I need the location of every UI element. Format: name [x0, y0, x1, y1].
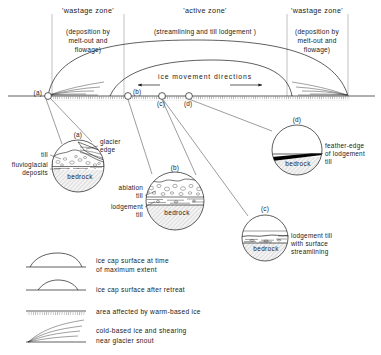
marker-a[interactable] [45, 93, 52, 100]
inset-a-label: (a) [74, 131, 82, 139]
inset-d-ann-l2: of lodgement [325, 150, 365, 158]
leader-a-2 [51, 99, 92, 142]
legend-label-max-extent-l2: of maximum extent [96, 266, 157, 273]
inset-a-ann-fluvio-l1: fluvioglacial [12, 161, 48, 169]
marker-d[interactable] [186, 93, 193, 100]
zone-sub-wastage-right-l1: (deposition by [295, 28, 339, 36]
legend-label-after-retreat-l1: ice cap surface after retreat [96, 286, 185, 294]
inset-a-ann-glacier-edge-l2: edge [100, 146, 115, 154]
zone-title-wastage-right: 'wastage zone' [291, 6, 343, 15]
inset-a-ann-fluvio-l2: deposits [22, 169, 48, 177]
marker-label-b: (b) [133, 88, 141, 96]
zone-title-wastage-left: 'wastage zone' [62, 6, 114, 15]
legend-item-warm-based: area affected by warm-based ice [26, 308, 201, 316]
legend-label-warm-based-l1: area affected by warm-based ice [96, 308, 201, 316]
legend-label-cold-based-l1: cold-based ice and shearing [96, 327, 187, 335]
inset-d-ann-l1: feather-edge [325, 142, 364, 150]
inset-b-bedrock-label: bedrock [164, 209, 190, 216]
inset-d-ann-l3: till [325, 158, 332, 165]
zone-sub-wastage-right-l2: melt-out and [297, 37, 336, 44]
inset-b-ann-ablation-l1: ablation [119, 184, 144, 191]
inset-b-label: (b) [171, 164, 179, 172]
shear-fan-left [49, 82, 104, 95]
inset-c-ann-l2: with surface [290, 240, 328, 247]
zone-sub-wastage-left-l1: (deposition by [66, 28, 110, 36]
warm-based-bed-hatch [46, 96, 350, 100]
legend-label-max-extent-l1: ice cap surface at time [96, 257, 169, 265]
inset-c: (c) bedrock lodgement till with surface … [242, 205, 332, 263]
inset-c-ann-l3: streamlining [291, 248, 329, 256]
inset-c-label: (c) [261, 205, 269, 213]
legend-item-after-retreat: ice cap surface after retreat [26, 280, 185, 294]
leader-d-1 [190, 100, 272, 132]
legend-symbol-warm-hatch [27, 311, 85, 315]
inset-c-ann-l1: lodgement till [291, 232, 332, 240]
inset-b: (b) bedrock ablation till lodgement till [111, 164, 205, 230]
legend-label-cold-based-l2: near glacier snout [96, 337, 154, 345]
legend-item-cold-based: cold-based ice and shearing near glacier… [26, 320, 187, 345]
marker-label-a: (a) [34, 89, 42, 97]
legend: ice cap surface at time of maximum exten… [26, 253, 201, 345]
zone-sub-wastage-right-l3: flowage) [304, 46, 331, 54]
ice-movement-label: ice movement directions [158, 73, 252, 80]
zone-sub-active-l1: (streamlining and till lodgement ) [154, 28, 256, 36]
glacial-cross-section-diagram: 'wastage zone' (deposition by melt-out a… [0, 0, 381, 355]
inset-a: (a) bedrock glacier edge till fluvioglac… [12, 131, 121, 192]
inset-d: (d) bedrock feather-edge of lodgement ti… [272, 116, 365, 177]
legend-item-max-extent: ice cap surface at time of maximum exten… [26, 253, 169, 273]
leader-b-1 [128, 100, 152, 175]
inset-a-ann-glacier-edge-l1: glacier [100, 138, 121, 146]
shear-fan-right [292, 82, 347, 95]
inset-d-bedrock-label: bedrock [285, 160, 311, 167]
marker-c[interactable] [159, 93, 166, 100]
inset-a-bedrock-label: bedrock [67, 173, 93, 180]
legend-symbol-ice-cap-dome-large [30, 253, 82, 267]
inset-b-ann-ablation-l2: till [136, 192, 143, 199]
legend-symbol-shear-fan [28, 320, 84, 342]
inset-b-ann-lodgement-l1: lodgement [111, 203, 143, 211]
zone-sub-wastage-left-l2: melt-out and [68, 37, 107, 44]
inset-b-ann-lodgement-l2: till [136, 211, 143, 218]
inset-d-label: (d) [293, 116, 301, 124]
zone-labels: 'wastage zone' (deposition by melt-out a… [62, 6, 343, 54]
legend-symbol-ice-cap-dome-small [38, 280, 78, 290]
inset-c-bedrock-label: bedrock [253, 245, 279, 252]
figure-canvas: 'wastage zone' (deposition by melt-out a… [0, 0, 381, 355]
zone-title-active: 'active zone' [183, 6, 227, 15]
marker-b[interactable] [125, 93, 132, 100]
leader-a-1 [46, 99, 62, 144]
marker-label-d: (d) [184, 100, 192, 108]
inset-a-ann-till: till [41, 151, 48, 158]
